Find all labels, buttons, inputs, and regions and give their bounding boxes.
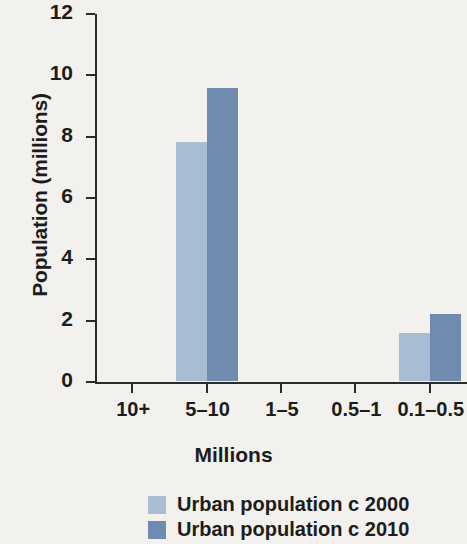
legend-item: Urban population c 2000 — [148, 492, 409, 517]
bar — [207, 88, 238, 381]
bar-chart-figure: Population (millions) 024681012 10+5–101… — [0, 0, 467, 544]
bar — [399, 333, 430, 381]
y-axis-tick: 8 — [86, 136, 95, 138]
bar — [430, 314, 461, 381]
legend-item: Urban population c 2010 — [148, 517, 409, 542]
y-axis-tick-label: 8 — [61, 123, 73, 147]
x-axis-tick — [131, 382, 133, 393]
x-axis-title: Millions — [0, 443, 467, 467]
x-axis-tick — [429, 382, 431, 393]
x-axis-tick — [354, 382, 356, 393]
y-axis-tick-label: 10 — [50, 61, 73, 85]
bar — [176, 142, 207, 381]
y-axis-tick-label: 4 — [61, 245, 73, 269]
y-axis-tick-label: 12 — [50, 0, 73, 24]
y-axis-tick: 12 — [86, 13, 95, 15]
y-axis-tick: 4 — [86, 258, 95, 260]
legend-swatch — [148, 496, 166, 514]
y-axis-tick: 10 — [86, 74, 95, 76]
x-axis-tick — [280, 382, 282, 393]
y-axis-title: Population (millions) — [28, 35, 52, 355]
y-axis-tick-label: 6 — [61, 184, 73, 208]
legend-label: Urban population c 2010 — [177, 518, 409, 541]
y-axis-tick: 0 — [86, 381, 95, 383]
x-axis-tick-label: 0.1–0.5 — [376, 398, 467, 421]
legend-swatch — [148, 521, 166, 539]
chart-legend: Urban population c 2000Urban population … — [148, 492, 409, 542]
plot-area: 024681012 10+5–101–50.5–10.1–0.5 — [95, 14, 467, 383]
x-axis-tick — [206, 382, 208, 393]
y-axis-tick-label: 2 — [61, 307, 73, 331]
legend-label: Urban population c 2000 — [177, 493, 409, 516]
y-axis-tick: 6 — [86, 197, 95, 199]
y-axis-line — [95, 14, 97, 384]
y-axis-tick-label: 0 — [61, 368, 73, 392]
y-axis-tick: 2 — [86, 320, 95, 322]
